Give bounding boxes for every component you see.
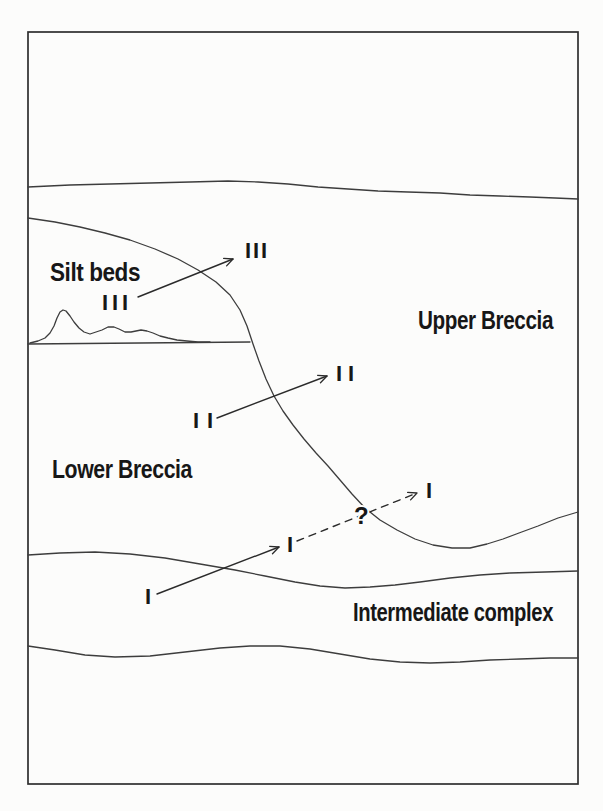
marker-iii-target: III <box>245 238 267 263</box>
label-lower-breccia: Lower Breccia <box>52 454 193 484</box>
silt-bed-baseline <box>28 342 250 344</box>
marker-iii-source: III <box>102 290 128 315</box>
marker-i-source: I <box>145 584 151 609</box>
figure-frame <box>28 32 578 784</box>
marker-i-dashed-target: I <box>426 478 432 503</box>
figure-page: Silt beds Upper Breccia Lower Breccia In… <box>0 0 603 811</box>
label-silt-beds: Silt beds <box>50 257 140 287</box>
query-mark: ? <box>354 502 369 529</box>
label-upper-breccia: Upper Breccia <box>418 305 554 335</box>
arrow-unit-ii <box>217 376 327 418</box>
silt-bed-profile-curve <box>30 310 210 343</box>
marker-i-target: I <box>287 532 293 557</box>
arrow-unit-i <box>157 547 279 594</box>
upper-contact-line <box>28 181 578 199</box>
arrow-unit-iii <box>138 259 233 297</box>
marker-ii-source: II <box>193 408 213 433</box>
marker-ii-target: II <box>336 361 354 386</box>
intermediate-complex-bottom-line <box>28 646 578 663</box>
intermediate-complex-top-line <box>28 552 578 588</box>
cross-section-figure: Silt beds Upper Breccia Lower Breccia In… <box>0 0 603 811</box>
label-intermediate-complex: Intermediate complex <box>353 597 554 627</box>
